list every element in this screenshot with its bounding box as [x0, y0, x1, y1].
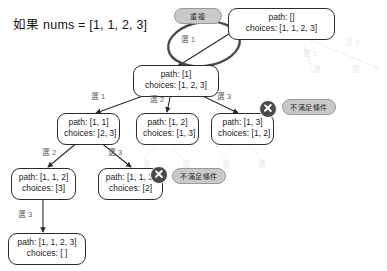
tree-node-1-1[interactable]: path: [1, 1] choices: [2, 3]: [57, 113, 120, 145]
ghost-edge-label-3: 選: [313, 63, 321, 74]
node-path: path: [1, 2]: [143, 117, 192, 128]
edge-label-n112-n1123: 選 3: [18, 208, 33, 219]
ghost-edge-label-7: 選: [222, 158, 230, 169]
node-path: path: []: [235, 12, 328, 23]
edge-label-n1-n13: 選 3: [217, 90, 232, 101]
node-path: path: [1]: [140, 69, 212, 80]
edge-label-n11-n112: 選 2: [42, 146, 57, 157]
node-choices: choices: [2, 3]: [64, 128, 113, 139]
tree-node-1-1-2-3[interactable]: path: [1, 1, 2, 3] choices: [ ]: [8, 233, 86, 265]
node-path: path: [1, 1, 2]: [18, 172, 69, 183]
duplicate-badge[interactable]: 重複: [174, 8, 222, 24]
node-choices: choices: [1, 2]: [218, 128, 267, 139]
reject-badge-node-1-1-3[interactable]: 不滿足條件: [172, 168, 226, 184]
node-path: path: [1, 1]: [64, 117, 113, 128]
edge-label-root-n1: 選 1: [181, 33, 196, 44]
tree-node-1[interactable]: path: [1] choices: [1, 2, 3]: [133, 65, 219, 97]
node-choices: choices: [3]: [18, 183, 69, 194]
tree-node-1-1-2[interactable]: path: [1, 1, 2] choices: [3]: [11, 168, 76, 200]
node-choices: choices: [1, 2, 3]: [140, 80, 212, 91]
ghost-edge-label-2: 選 3: [345, 36, 360, 47]
edge-label-n11-n113: 選 3: [108, 146, 123, 157]
node-choices: choices: [ ]: [15, 248, 79, 259]
reject-badge-node-1-3[interactable]: 不滿足條件: [282, 99, 336, 115]
ghost-edge-label-8: 選: [258, 158, 266, 169]
node-path: path: [1, 1, 2, 3]: [15, 237, 79, 248]
diagram-canvas: 如果 nums = [1, 1, 2, 3]: [0, 0, 387, 271]
tree-node-root[interactable]: path: [] choices: [1, 1, 2, 3]: [228, 8, 335, 40]
node-choices: choices: [1, 3]: [143, 128, 192, 139]
ghost-edge-label-4: 選: [352, 63, 360, 74]
edge-label-n1-n12: 選 2: [150, 93, 165, 104]
node-path: path: [1, 1, 3]: [105, 172, 156, 183]
edge-label-n1-n11: 選 1: [91, 90, 106, 101]
tree-node-1-2[interactable]: path: [1, 2] choices: [1, 3]: [136, 113, 199, 145]
node-path: path: [1, 3]: [218, 117, 267, 128]
ghost-edge-label-5: 選: [143, 158, 151, 169]
node-choices: choices: [2]: [105, 183, 156, 194]
tree-node-1-3[interactable]: path: [1, 3] choices: [1, 2]: [211, 113, 274, 145]
x-circle-icon-node-1-1-3: [150, 166, 168, 184]
node-choices: choices: [1, 1, 2, 3]: [235, 23, 328, 34]
x-circle-icon-node-1-3: [259, 100, 277, 118]
ghost-edge-label-1: 選 2: [303, 47, 318, 58]
